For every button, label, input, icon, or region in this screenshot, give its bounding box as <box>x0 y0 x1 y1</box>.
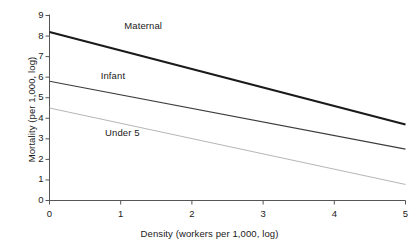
y-axis-tick-label: 6 <box>28 71 44 82</box>
series-line-infant <box>50 81 406 149</box>
y-axis-tick-label: 5 <box>28 91 44 102</box>
x-axis-tick-label: 1 <box>111 208 131 219</box>
x-axis-tick-label: 4 <box>324 208 344 219</box>
series-label-under-5: Under 5 <box>105 127 140 138</box>
y-axis-tick-label: 0 <box>28 194 44 205</box>
y-axis-tick-label: 4 <box>28 112 44 123</box>
y-axis-tick-label: 7 <box>28 50 44 61</box>
y-axis-tick-label: 8 <box>28 30 44 41</box>
chart-figure: Mortality (per 1,000, log) Density (work… <box>0 0 419 250</box>
series-label-maternal: Maternal <box>124 20 162 31</box>
y-axis-tick-label: 9 <box>28 9 44 20</box>
x-axis-tick-label: 0 <box>40 208 60 219</box>
x-axis-tick-label: 5 <box>396 208 416 219</box>
y-axis-tick-label: 3 <box>28 132 44 143</box>
series-line-under-5 <box>50 108 406 184</box>
y-axis-tick-label: 2 <box>28 153 44 164</box>
y-axis-tick-label: 1 <box>28 173 44 184</box>
series-lines-group <box>50 32 406 185</box>
x-axis-title: Density (workers per 1,000, log) <box>0 228 419 239</box>
x-axis-tick-label: 2 <box>182 208 202 219</box>
chart-plot-area <box>0 0 419 250</box>
series-label-infant: Infant <box>101 70 125 81</box>
x-axis-tick-label: 3 <box>253 208 273 219</box>
